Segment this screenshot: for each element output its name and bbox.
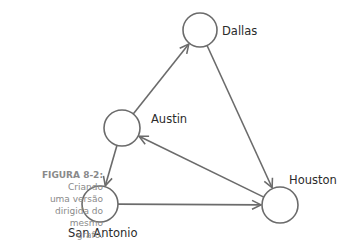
node-label-austin: Austin (151, 112, 187, 126)
edge-houston-to-austin (139, 136, 264, 197)
edge-dallas-to-houston (207, 45, 272, 187)
caption-line: Criando (0, 181, 103, 193)
figure-caption: FIGURA 8-2: Criando uma versão dirigida … (0, 169, 103, 241)
node-houston (262, 187, 298, 223)
edge-san_antonio-to-houston (118, 204, 261, 205)
caption-line: mesmo (0, 217, 103, 229)
caption-line: dirigida do (0, 205, 103, 217)
node-label-houston: Houston (289, 173, 337, 187)
edge-austin-to-san_antonio (105, 145, 117, 185)
node-label-dallas: Dallas (222, 24, 257, 38)
caption-line: uma versão (0, 193, 103, 205)
edge-austin-to-dallas (133, 44, 189, 114)
graph-nodes (82, 13, 298, 223)
node-dallas (183, 13, 217, 47)
figure-number: FIGURA 8-2: (0, 169, 103, 181)
caption-line: grafo. (0, 229, 103, 241)
node-austin (104, 110, 140, 146)
